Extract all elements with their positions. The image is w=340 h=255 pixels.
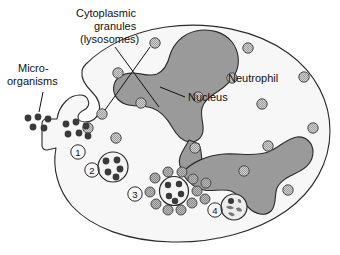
stage3-fusing-granule (200, 194, 210, 204)
microorganism (45, 116, 52, 123)
granule (263, 141, 273, 151)
label-cytoplasmic-granules-line1: Cytoplasmic (76, 7, 136, 19)
granule (243, 43, 253, 53)
stage4-number: 4 (212, 205, 217, 216)
stage2-microorganism (114, 157, 121, 164)
stage1-microorganism (76, 130, 83, 137)
stage1-microorganism (83, 123, 90, 130)
stage3-fusing-granule (176, 205, 186, 215)
granule (283, 185, 293, 195)
stage3-microorganism (165, 182, 171, 188)
granule (239, 166, 249, 176)
figure-canvas: 1 2 (0, 0, 340, 255)
stage3-fusing-granule (151, 199, 161, 209)
stage3-microorganism (166, 193, 172, 199)
granule (136, 98, 146, 108)
label-cytoplasmic-granules-line3: (lysosomes) (80, 33, 139, 45)
granule (299, 72, 309, 82)
granule (190, 143, 200, 153)
stage2-number: 2 (89, 165, 94, 176)
label-cytoplasmic-granules-line2: granules (94, 20, 137, 32)
stage3-fusing-granule (188, 174, 198, 184)
label-nucleus: Nucleus (188, 91, 228, 103)
granule (111, 133, 121, 143)
stage2-microorganism (113, 174, 120, 181)
microorganism (30, 124, 37, 131)
stage4-phagolysosome (221, 194, 247, 220)
stage3-fusing-granule (145, 187, 155, 197)
leader-line-microorganisms (39, 92, 43, 112)
label-microorganisms-line2: organisms (7, 75, 58, 87)
microorganism (25, 115, 32, 122)
stage2-microorganism (103, 158, 110, 165)
stage3-fusing-granule (177, 167, 187, 177)
stage4-debris (228, 198, 234, 204)
stage3-fusing-granule (163, 205, 173, 215)
label-microorganisms-line1: Micro- (18, 62, 49, 74)
stage1-microorganism (85, 133, 92, 140)
stage1-microorganism (63, 121, 70, 128)
stage1-microorganism (65, 131, 72, 138)
stage3-fusing-granule (163, 167, 173, 177)
granule (257, 99, 267, 109)
stage3-microorganism (178, 191, 184, 197)
stage3-fusing-granule (150, 173, 160, 183)
label-neutrophil: Neutrophil (228, 72, 278, 84)
granule (308, 123, 318, 133)
microorganism (35, 114, 42, 121)
granule (97, 109, 107, 119)
granule (113, 68, 123, 78)
stage3-microorganism (172, 198, 178, 204)
stage2-microorganism (117, 166, 124, 173)
stage3-fusing-granule (192, 186, 202, 196)
stage3-fusing-granule (187, 198, 197, 208)
stage3-microorganism (176, 181, 182, 187)
stage3-number: 3 (132, 189, 137, 200)
stage3-fusing-granule (201, 178, 211, 188)
stage1-number: 1 (75, 147, 80, 158)
microorganism (41, 125, 48, 132)
granule (150, 38, 160, 48)
stage1-microorganism (73, 119, 80, 126)
stage2-microorganism (105, 169, 112, 176)
neutrophil-phagocytosis-diagram: 1 2 (0, 0, 340, 255)
